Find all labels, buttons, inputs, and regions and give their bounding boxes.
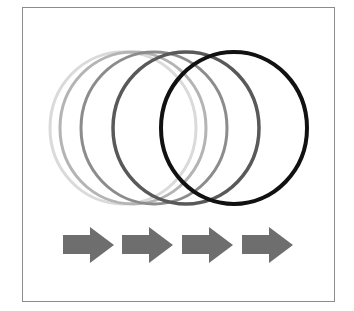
circle-position-1	[50, 52, 196, 204]
right-arrow-icon	[63, 227, 114, 263]
right-arrow-icon	[242, 227, 293, 263]
arrow-sequence	[63, 227, 293, 263]
circle-sequence	[50, 52, 307, 204]
motion-diagram	[0, 0, 354, 311]
right-arrow-icon	[182, 227, 233, 263]
circle-position-5	[161, 52, 307, 204]
right-arrow-icon	[122, 227, 173, 263]
